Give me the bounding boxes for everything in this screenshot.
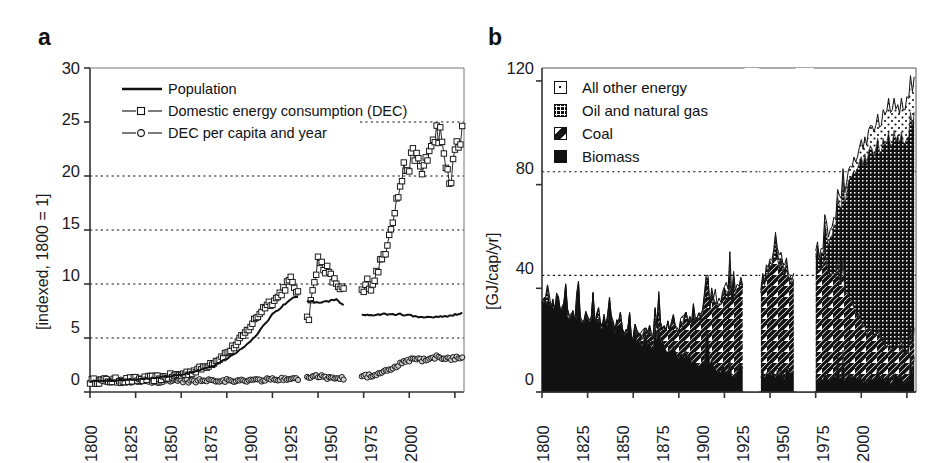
diagonal-hatch-swatch-icon	[548, 123, 572, 145]
legend-item-biomass: Biomass	[548, 145, 708, 168]
panel-a-xtick-1875: 1875	[202, 425, 221, 462]
line-circle-marker-icon	[118, 122, 166, 144]
sparse-dots-swatch-icon	[548, 77, 572, 99]
panel-a-xtick-1800: 1800	[82, 425, 101, 462]
panel-b-xtick-1925: 1925	[734, 425, 753, 462]
legend-item-dec: Domestic energy consumption (DEC)	[118, 100, 407, 122]
legend-item-all-other-energy: All other energy	[548, 76, 708, 99]
dense-dots-swatch-icon	[548, 100, 572, 122]
legend-label-all-other-energy: All other energy	[572, 79, 687, 96]
panel-b-legend: All other energy Oil and natural gas Coa…	[548, 76, 708, 168]
legend-item-dec-per-capita: DEC per capita and year	[118, 122, 407, 144]
solid-black-swatch-icon	[548, 146, 572, 168]
panel-a-xtick-1925: 1925	[282, 425, 301, 462]
panel-a-plot	[0, 0, 470, 463]
legend-label-oil-and-natural-gas: Oil and natural gas	[572, 102, 708, 119]
legend-label-population: Population	[166, 81, 237, 97]
line-square-marker-icon	[118, 100, 166, 122]
panel-b-xtick-1900: 1900	[694, 425, 713, 462]
panel-b-xtick-1800: 1800	[534, 425, 553, 462]
panel-b-xtick-1825: 1825	[574, 425, 593, 462]
panel-b-xtick-2000: 2000	[854, 425, 873, 462]
panel-b: b [GJ/cap/yr] 120 80 40 0 All other ener…	[470, 0, 939, 463]
panel-a-xtick-2000: 2000	[402, 425, 421, 462]
figure-root: a [indexed, 1800 = 1] 30 25 20 15 10 5 0…	[0, 0, 939, 463]
panel-a-xtick-1950: 1950	[322, 425, 341, 462]
solid-line-icon	[118, 78, 166, 100]
panel-b-xtick-1975: 1975	[814, 425, 833, 462]
panel-a: a [indexed, 1800 = 1] 30 25 20 15 10 5 0…	[0, 0, 470, 463]
panel-a-legend: Population Domestic energy consumption (…	[118, 78, 407, 144]
legend-label-dec: Domestic energy consumption (DEC)	[166, 103, 407, 119]
legend-item-oil-and-natural-gas: Oil and natural gas	[548, 99, 708, 122]
panel-a-xtick-1825: 1825	[122, 425, 141, 462]
panel-b-plot	[470, 0, 939, 463]
panel-b-xtick-1875: 1875	[654, 425, 673, 462]
legend-item-population: Population	[118, 78, 407, 100]
panel-a-xtick-1850: 1850	[162, 425, 181, 462]
legend-label-coal: Coal	[572, 125, 613, 142]
panel-b-xtick-1850: 1850	[614, 425, 633, 462]
legend-item-coal: Coal	[548, 122, 708, 145]
panel-b-xtick-1950: 1950	[774, 425, 793, 462]
legend-label-dec-per-capita: DEC per capita and year	[166, 125, 327, 141]
legend-label-biomass: Biomass	[572, 148, 640, 165]
panel-a-xtick-1900: 1900	[242, 425, 261, 462]
panel-a-xtick-1975: 1975	[362, 425, 381, 462]
